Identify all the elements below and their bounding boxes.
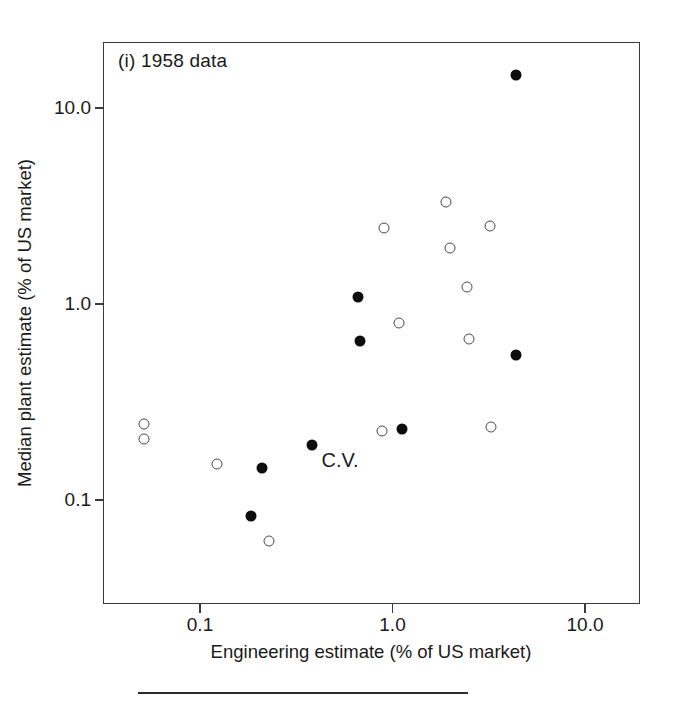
data-point-open bbox=[211, 459, 222, 470]
data-point-open bbox=[441, 197, 452, 208]
data-point-open bbox=[378, 222, 389, 233]
data-point-filled bbox=[306, 440, 317, 451]
x-tick-label: 0.1 bbox=[187, 614, 213, 636]
data-point-open bbox=[138, 433, 149, 444]
x-tick-mark bbox=[392, 604, 393, 613]
data-point-filled bbox=[246, 510, 257, 521]
x-tick-mark bbox=[199, 604, 200, 613]
data-point-open bbox=[393, 317, 404, 328]
data-point-open bbox=[464, 334, 475, 345]
y-axis-title: Median plant estimate (% of US market) bbox=[14, 159, 36, 487]
plot-frame bbox=[103, 42, 640, 604]
panel-title: (i) 1958 data bbox=[118, 50, 227, 72]
data-point-open bbox=[138, 418, 149, 429]
data-point-filled bbox=[257, 463, 268, 474]
data-point-open bbox=[462, 282, 473, 293]
data-point-filled bbox=[511, 70, 522, 81]
data-point-filled bbox=[511, 349, 522, 360]
y-tick-label: 1.0 bbox=[65, 293, 91, 315]
y-tick-label: 10.0 bbox=[54, 97, 91, 119]
data-point-open bbox=[484, 221, 495, 232]
data-point-filled bbox=[396, 424, 407, 435]
data-point-filled bbox=[352, 291, 363, 302]
x-tick-label: 10.0 bbox=[567, 614, 604, 636]
y-tick-mark bbox=[95, 499, 104, 500]
y-tick-label: 0.1 bbox=[65, 489, 91, 511]
data-point-open bbox=[445, 243, 456, 254]
data-point-open bbox=[486, 422, 497, 433]
data-point-open bbox=[376, 425, 387, 436]
y-tick-mark bbox=[95, 107, 104, 108]
figure-scatter-plot: (i) 1958 data 0.11.010.0 0.11.010.0 C.V.… bbox=[0, 0, 676, 705]
x-tick-mark bbox=[584, 604, 585, 613]
data-point-filled bbox=[355, 335, 366, 346]
annotation-label: C.V. bbox=[322, 449, 359, 472]
x-axis-title: Engineering estimate (% of US market) bbox=[211, 641, 532, 663]
y-tick-mark bbox=[95, 303, 104, 304]
x-tick-label: 1.0 bbox=[379, 614, 405, 636]
bottom-rule bbox=[138, 692, 468, 694]
data-point-open bbox=[263, 535, 274, 546]
